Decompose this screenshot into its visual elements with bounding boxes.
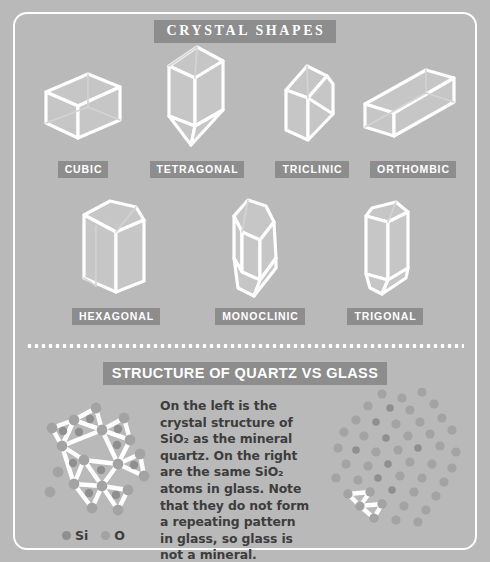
structure-section-title: STRUCTURE OF QUARTZ VS GLASS	[0, 362, 490, 385]
tetragonal-crystal-icon	[161, 44, 233, 148]
shape-label-orthombic: ORTHOMBIC	[366, 159, 460, 178]
cubic-crystal-icon	[42, 70, 124, 142]
legend-item-o: O	[101, 528, 125, 543]
atom-legend: Si O	[62, 528, 125, 543]
legend-label-o: O	[114, 528, 125, 543]
legend-label-si: Si	[75, 528, 88, 543]
crystal-shapes-title: CRYSTAL SHAPES	[0, 20, 490, 43]
shape-label-trigonal: TRIGONAL	[340, 306, 430, 325]
orthombic-crystal-icon	[362, 66, 458, 140]
structure-body-text: On the left is the crystal structure of …	[160, 398, 312, 562]
structure-section-title-label: STRUCTURE OF QUARTZ VS GLASS	[103, 362, 388, 385]
monoclinic-crystal-icon	[224, 196, 296, 300]
o-atom-swatch-icon	[101, 531, 110, 540]
shape-label-tetragonal: TETRAGONAL	[147, 159, 247, 178]
glass-amorphous-structure-diagram	[330, 388, 462, 528]
shape-label-triclinic: TRICLINIC	[267, 159, 357, 178]
shape-label-monoclinic: MONOCLINIC	[210, 306, 310, 325]
triclinic-crystal-icon	[281, 62, 343, 146]
crystal-shapes-infographic: CRYSTAL SHAPES	[0, 0, 490, 562]
shape-label-cubic: CUBIC	[42, 159, 124, 178]
si-atom-swatch-icon	[62, 531, 71, 540]
quartz-crystal-lattice-diagram	[44, 394, 156, 516]
legend-item-si: Si	[62, 528, 88, 543]
trigonal-crystal-icon	[352, 198, 418, 298]
hexagonal-crystal-icon	[78, 198, 150, 298]
shape-label-hexagonal: HEXAGONAL	[70, 306, 162, 325]
section-divider	[26, 344, 464, 348]
crystal-shapes-title-label: CRYSTAL SHAPES	[154, 20, 337, 43]
